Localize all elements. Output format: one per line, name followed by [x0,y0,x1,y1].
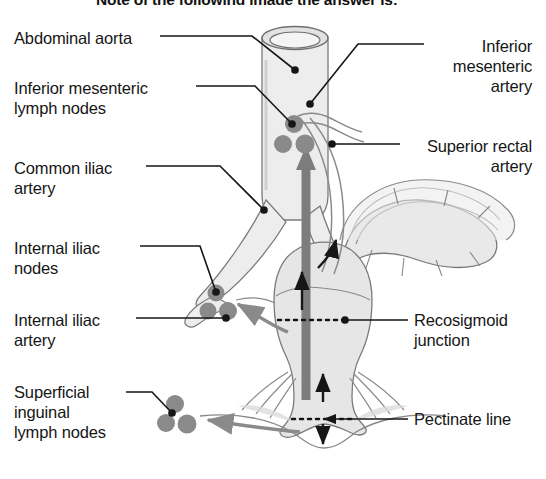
label-inferior-mesenteric-lymph-nodes: Inferior mesenteric lymph nodes [14,78,148,118]
leader-internal-iliac-nodes [140,246,216,292]
label-superior-rectal-artery: Superior rectal artery [408,136,532,176]
label-rectosigmoid-junction: Recosigmoid junction [414,310,544,350]
label-abdominal-aorta: Abdominal aorta [14,28,132,48]
label-internal-iliac-artery: Internal iliac artery [14,310,100,350]
label-internal-iliac-nodes: Internal iliac nodes [14,238,100,278]
label-common-iliac-artery: Common iliac artery [14,158,112,198]
leader-superficial-inguinal-lymph-nodes [126,392,172,413]
sigmoid-colon [340,180,515,276]
leader-common-iliac-artery [146,166,264,210]
label-pectinate-line: Pectinate line [414,409,544,429]
anatomical-figure: Note of the following image the answer i… [0,0,546,479]
label-superficial-inguinal-lymph-nodes: Superficial inguinal lymph nodes [14,382,106,442]
superficial-inguinal-lymph-nodes-cluster [157,395,197,434]
label-inferior-mesenteric-artery: Inferior mesenteric artery [432,36,532,96]
